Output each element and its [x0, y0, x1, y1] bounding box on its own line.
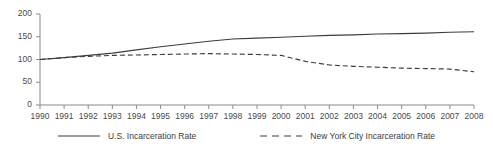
legend-swatch-dashed-line: [260, 132, 302, 140]
y-axis-tick-label: 0: [0, 100, 32, 109]
x-axis-tick-label: 2008: [457, 112, 491, 121]
y-axis-ticks: [36, 14, 40, 105]
legend-label-nyc-incarceration-rate: New York City Incarceration Rate: [310, 131, 435, 141]
legend-item-nyc-incarceration-rate: New York City Incarceration Rate: [260, 131, 435, 141]
legend-label-us-incarceration-rate: U.S. Incarceration Rate: [108, 131, 196, 141]
legend-item-us-incarceration-rate: U.S. Incarceration Rate: [58, 131, 196, 141]
y-axis-tick-label: 150: [0, 32, 32, 41]
line-chart: 050100150200 199019911992199319941995199…: [0, 0, 493, 153]
y-axis-tick-label: 100: [0, 55, 32, 64]
legend-swatch-solid-line: [58, 132, 100, 140]
chart-legend: U.S. Incarceration Rate New York City In…: [0, 131, 493, 141]
series-line-nyc-incarceration-rate: [40, 54, 474, 72]
y-axis-tick-label: 50: [0, 77, 32, 86]
x-axis-ticks: [40, 105, 474, 109]
y-axis-tick-label: 200: [0, 9, 32, 18]
